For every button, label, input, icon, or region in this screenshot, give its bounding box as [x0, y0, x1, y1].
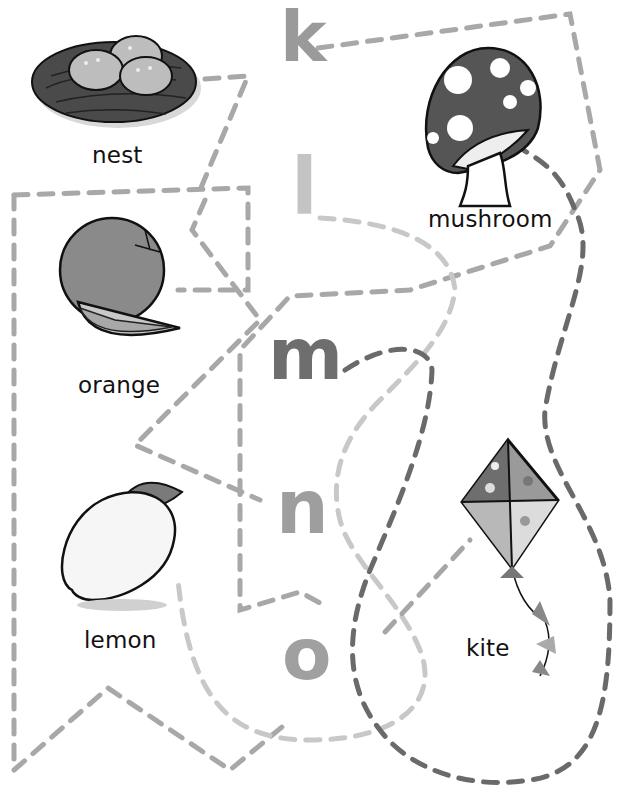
letter-l: l — [291, 148, 318, 226]
letter-k: k — [280, 2, 327, 72]
lemon-icon — [52, 470, 192, 615]
letter-n: n — [276, 470, 329, 544]
nest-icon — [26, 18, 206, 133]
label-nest: nest — [92, 142, 143, 168]
label-lemon: lemon — [84, 627, 157, 653]
label-kite: kite — [466, 635, 510, 661]
path-k-nest — [200, 76, 248, 190]
label-orange: orange — [78, 372, 160, 398]
label-mushroom: mushroom — [428, 206, 553, 232]
orange-icon — [50, 210, 190, 350]
mushroom-icon — [418, 38, 548, 208]
letter-m: m — [268, 318, 343, 390]
matching-worksheet: k l m n o nest mushroom orange lem — [0, 0, 621, 802]
letter-o: o — [282, 618, 331, 690]
